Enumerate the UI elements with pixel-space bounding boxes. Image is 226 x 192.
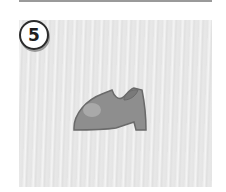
item-number: 5 xyxy=(28,25,40,45)
top-divider xyxy=(19,0,212,2)
item-number-badge: 5 xyxy=(19,20,49,50)
shoe-icon xyxy=(72,86,152,134)
